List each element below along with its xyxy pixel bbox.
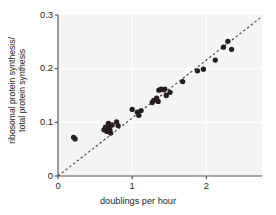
x-tick-label: 1: [121, 180, 143, 191]
x-tick-label: 0: [47, 180, 69, 191]
x-axis-label: doublings per hour: [0, 196, 276, 206]
x-axis-ticklabels: 012: [0, 0, 276, 215]
scatter-plot-figure: ribosomal protein synthesis/total protei…: [0, 0, 276, 215]
x-tick-label: 2: [195, 180, 217, 191]
